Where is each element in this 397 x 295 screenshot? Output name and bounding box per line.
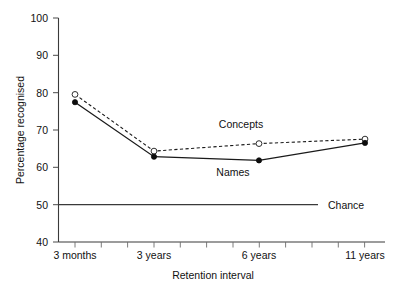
x-axis-tick-labels: 3 months 3 years 6 years 11 years bbox=[53, 249, 384, 261]
y-tick-label: 40 bbox=[36, 236, 48, 248]
data-point-names bbox=[256, 158, 261, 163]
data-point-concepts bbox=[151, 148, 157, 154]
series-annotation-chance: Chance bbox=[328, 199, 364, 211]
x-tick-label: 3 years bbox=[137, 249, 171, 261]
data-point-names bbox=[151, 154, 156, 159]
y-tick-label: 60 bbox=[36, 161, 48, 173]
y-axis-ticks bbox=[53, 18, 59, 242]
y-axis-title: Percentage recognised bbox=[14, 76, 26, 184]
data-point-names bbox=[72, 100, 77, 105]
x-tick-label: 6 years bbox=[242, 249, 276, 261]
y-tick-label: 70 bbox=[36, 124, 48, 136]
series-annotation-names: Names bbox=[216, 166, 249, 178]
data-point-concepts bbox=[72, 92, 78, 98]
x-axis-ticks bbox=[75, 242, 365, 248]
y-tick-label: 80 bbox=[36, 87, 48, 99]
x-axis-title: Retention interval bbox=[172, 269, 254, 281]
y-tick-label: 100 bbox=[30, 12, 48, 24]
data-point-names bbox=[362, 140, 367, 145]
y-tick-label: 50 bbox=[36, 199, 48, 211]
data-point-concepts bbox=[256, 141, 262, 147]
series-line-names bbox=[75, 102, 365, 160]
line-chart: 100 90 80 70 60 50 40 3 months 3 yea bbox=[0, 0, 397, 295]
chart-container: 100 90 80 70 60 50 40 3 months 3 yea bbox=[0, 0, 397, 295]
series-annotation-concepts: Concepts bbox=[219, 118, 263, 130]
y-tick-label: 90 bbox=[36, 49, 48, 61]
y-axis-tick-labels: 100 90 80 70 60 50 40 bbox=[30, 12, 48, 248]
x-tick-label: 3 months bbox=[53, 249, 96, 261]
x-tick-label: 11 years bbox=[345, 249, 385, 261]
